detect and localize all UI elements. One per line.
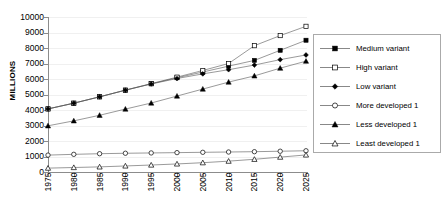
legend-item-label: Least developed 1: [356, 139, 420, 148]
legend-marker-open-square-icon: [314, 58, 356, 77]
legend-item-label: High variant: [356, 63, 398, 72]
population-projection-chart: MILLIONS 1000090008000700060005000400030…: [0, 0, 444, 215]
y-axis-tick-label: 9000: [2, 28, 44, 37]
series-layer: [48, 17, 307, 172]
legend-marker-filled-square-icon: [314, 39, 356, 58]
y-axis-tick-label: 7000: [2, 59, 44, 68]
data-point: [304, 38, 308, 42]
legend-item-medium-variant[interactable]: Medium variant: [314, 39, 440, 58]
y-axis-tick-label: 2000: [2, 137, 44, 146]
legend-marker-filled-diamond-icon: [314, 77, 356, 96]
series-low-variant: [46, 53, 309, 112]
series-more-developed-1: [46, 149, 308, 158]
y-axis-tick-label: 8000: [2, 44, 44, 53]
data-point: [252, 44, 256, 48]
data-point: [304, 24, 308, 28]
data-point: [252, 63, 257, 68]
series-line: [48, 40, 306, 109]
legend-item-label: Low variant: [356, 82, 396, 91]
y-axis-tick-label: 0: [2, 168, 44, 177]
x-axis-labels: 1975198019851990199520002005201020152020…: [48, 178, 308, 214]
data-point: [149, 151, 153, 155]
series-line: [48, 55, 306, 109]
y-axis-labels: 1000090008000700060005000400030002000100…: [0, 17, 44, 173]
y-axis-tick-label: 6000: [2, 75, 44, 84]
data-point: [97, 152, 101, 156]
y-axis-tick-label: 10000: [2, 13, 44, 22]
data-point: [303, 152, 308, 157]
data-point: [303, 59, 308, 64]
y-axis-tick-label: 5000: [2, 90, 44, 99]
legend-marker-filled-triangle-icon: [314, 115, 356, 134]
legend-item-low-variant[interactable]: Low variant: [314, 77, 440, 96]
chart-legend: Medium variantHigh variantLow variantMor…: [313, 34, 441, 153]
y-axis-tick-label: 3000: [2, 121, 44, 130]
data-point: [226, 150, 230, 154]
legend-marker-open-triangle-icon: [314, 134, 356, 153]
data-point: [252, 149, 256, 153]
data-point: [278, 48, 282, 52]
y-axis-tick-label: 1000: [2, 152, 44, 161]
legend-item-label: Less developed 1: [356, 120, 417, 129]
legend-marker-open-circle-icon: [314, 96, 356, 115]
data-point: [252, 58, 256, 62]
data-point: [278, 34, 282, 38]
legend-item-label: Medium variant: [356, 44, 409, 53]
data-point: [201, 150, 205, 154]
data-point: [72, 152, 76, 156]
legend-item-least-developed-1[interactable]: Least developed 1: [314, 134, 440, 153]
legend-item-more-developed-1[interactable]: More developed 1: [314, 96, 440, 115]
legend-item-less-developed-1[interactable]: Less developed 1: [314, 115, 440, 134]
y-axis-tick-label: 4000: [2, 106, 44, 115]
data-point: [46, 153, 50, 157]
data-point: [278, 149, 282, 153]
data-point: [278, 57, 283, 62]
data-point: [175, 150, 179, 154]
data-point: [227, 61, 231, 65]
data-point: [123, 151, 127, 155]
legend-item-label: More developed 1: [356, 101, 418, 110]
legend-item-high-variant[interactable]: High variant: [314, 58, 440, 77]
series-less-developed-1: [45, 59, 308, 128]
data-point: [304, 53, 309, 58]
